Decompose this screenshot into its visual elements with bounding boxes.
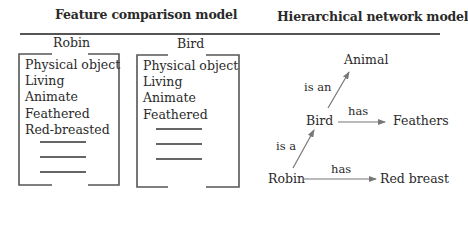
bird-feature-list: Physical object Living Animate Feathered — [143, 58, 238, 123]
bird-feature: Physical object — [143, 58, 238, 74]
bird-feature: Living — [143, 74, 238, 90]
robin-feature: Red-breasted — [25, 122, 120, 138]
edge-label-is-a: is a — [276, 139, 296, 153]
node-animal: Animal — [344, 52, 388, 67]
node-bird: Bird — [306, 113, 333, 128]
edge-label-bird-has: has — [348, 104, 368, 118]
robin-feature: Living — [25, 73, 120, 89]
bird-feature: Feathered — [143, 107, 238, 123]
bird-feature: Animate — [143, 90, 238, 106]
robin-feature: Feathered — [25, 106, 120, 122]
robin-feature: Animate — [25, 89, 120, 105]
edge-label-robin-has: has — [331, 162, 351, 176]
node-robin: Robin — [268, 171, 305, 186]
robin-feature: Physical object — [25, 57, 120, 73]
node-red-breast: Red breast — [380, 171, 449, 186]
robin-feature-list: Physical object Living Animate Feathered… — [25, 57, 120, 138]
edge-label-is-an: is an — [304, 80, 332, 94]
node-feathers: Feathers — [393, 113, 449, 128]
